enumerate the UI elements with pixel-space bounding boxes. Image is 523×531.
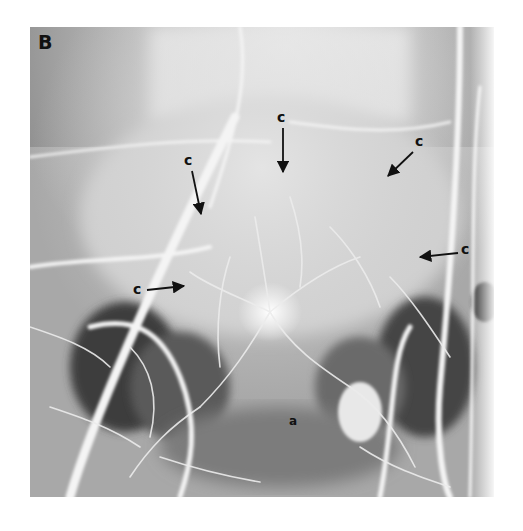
arrow-c-right xyxy=(420,253,458,257)
arrow-c-top-right xyxy=(388,152,413,176)
arrow-c-left xyxy=(147,286,184,290)
arrow-c-upper-left xyxy=(192,171,201,214)
annotation-arrows xyxy=(0,0,523,531)
